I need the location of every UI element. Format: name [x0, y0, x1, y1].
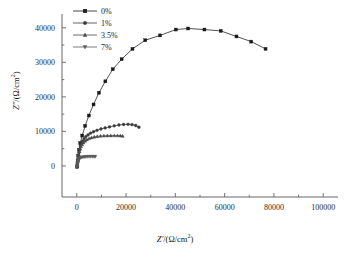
legend-item[interactable]: 0% [72, 5, 118, 17]
legend-marker-triangle-down [72, 41, 98, 53]
y-tick-label: 20000 [0, 92, 55, 101]
x-axis-title: Z'/(Ω/cm2) [157, 233, 194, 244]
y-tick-label: 10000 [0, 127, 55, 136]
y-tick-label: 30000 [0, 58, 55, 67]
legend-item[interactable]: 3.5% [72, 29, 118, 41]
legend-label: 1% [101, 19, 112, 28]
y-axis-unit-exponent: 2 [10, 74, 16, 77]
y-axis-symbol: Z'' [11, 102, 21, 110]
legend-item[interactable]: 7% [72, 41, 118, 53]
y-axis-unit-open: /(Ω/cm [11, 77, 21, 101]
x-axis-unit-close: ) [190, 234, 193, 244]
x-tick-label: 0 [75, 203, 79, 212]
series-1% [76, 123, 141, 168]
legend-item[interactable]: 1% [72, 17, 118, 29]
x-axis-unit-open: /(Ω/cm [163, 234, 187, 244]
y-axis-unit-close: ) [11, 72, 21, 75]
legend-marker-square [72, 5, 98, 17]
legend-label: 0% [101, 7, 112, 16]
x-tick-label: 100000 [311, 203, 335, 212]
x-tick-label: 80000 [264, 203, 284, 212]
x-tick-label: 20000 [116, 203, 136, 212]
x-tick-label: 60000 [215, 203, 235, 212]
chart-legend: 0% 1% 3.5% 7% [72, 5, 118, 53]
chart-figure: 0 20000 40000 60000 80000 100000 0 10000… [0, 0, 351, 259]
y-tick-label: 40000 [0, 23, 55, 32]
legend-label: 3.5% [101, 31, 118, 40]
legend-label: 7% [101, 43, 112, 52]
legend-marker-triangle-up [72, 29, 98, 41]
y-tick-label: 0 [0, 161, 55, 170]
x-tick-label: 40000 [165, 203, 185, 212]
y-axis-title: Z''/(Ω/cm2) [10, 72, 21, 110]
legend-marker-circle [72, 17, 98, 29]
